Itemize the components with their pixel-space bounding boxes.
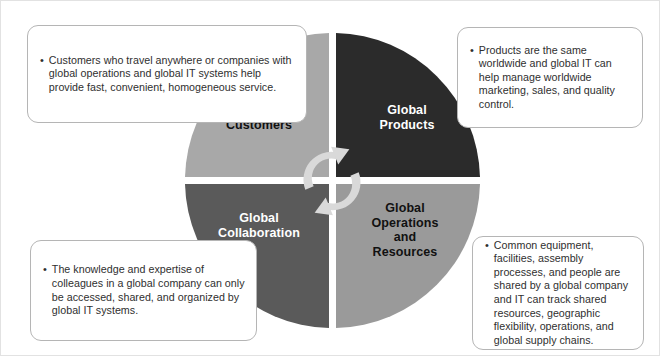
diagram-figure: Global Customers Global Products Global … [0,0,660,356]
callout-global-products: • Products are the same worldwide and gl… [457,27,643,128]
bullet-icon: • [40,54,44,68]
callout-text-global-customers: Customers who travel anywhere or compani… [49,54,296,95]
callout-global-operations-and-resources: • Common equipment, facilities, assembly… [472,236,644,350]
callout-global-customers: • Customers who travel anywhere or compa… [27,25,307,123]
quadrant-shape-global-operations-and-resources [336,184,480,328]
bullet-icon: • [485,239,489,253]
callout-text-global-collaboration: The knowledge and expertise of colleague… [52,263,246,317]
callout-text-global-products: Products are the same worldwide and glob… [479,44,632,112]
callout-global-collaboration: • The knowledge and expertise of colleag… [30,240,257,341]
bullet-icon: • [470,44,474,58]
bullet-icon: • [43,263,47,277]
callout-text-global-operations-and-resources: Common equipment, facilities, assembly p… [494,239,633,348]
